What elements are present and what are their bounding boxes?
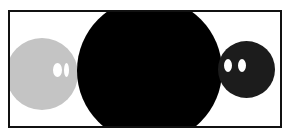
large-black-circle (77, 10, 222, 128)
scene-frame (8, 10, 282, 128)
gray-face-right-eye (64, 63, 69, 77)
dark-face-circle (218, 41, 275, 98)
dark-face-right-eye (238, 59, 246, 72)
gray-face-circle (8, 38, 78, 110)
dark-face-left-eye (224, 59, 232, 72)
gray-face-left-eye (53, 63, 62, 77)
